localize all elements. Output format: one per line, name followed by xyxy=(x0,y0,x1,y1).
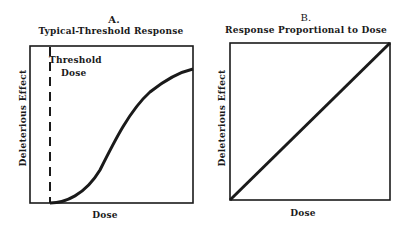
panel-a-letter: A. xyxy=(108,14,120,25)
panel-b-title: Response Proportional to Dose xyxy=(225,25,387,35)
threshold-label-line1: Threshold xyxy=(49,55,102,65)
threshold-label-line2: Dose xyxy=(61,68,86,78)
panel-b-ylabel: Deleterious Effect xyxy=(217,70,227,167)
panel-a-curve xyxy=(50,69,193,203)
panel-a-ylabel: Deleterious Effect xyxy=(18,70,28,167)
panel-b-letter: B. xyxy=(301,12,312,23)
panel-a-xlabel: Dose xyxy=(92,210,117,220)
panel-b-line xyxy=(230,43,390,200)
panel-a-frame xyxy=(30,46,193,203)
panel-a-title: Typical-Threshold Response xyxy=(39,26,184,36)
panel-b-xlabel: Dose xyxy=(290,208,315,218)
